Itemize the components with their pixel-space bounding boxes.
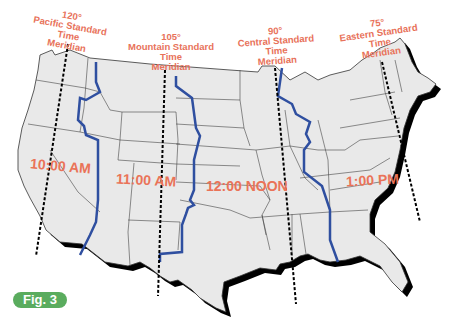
meridian-word: Meridian (128, 62, 214, 72)
meridian-label-central: 90° Central Standard Time Meridian (237, 23, 316, 68)
zone-label-eastern: 1:00 PM (346, 171, 400, 190)
zone-label-mountain: 11:00 AM (116, 170, 177, 189)
zone-label-central: 12:00 NOON (206, 178, 288, 194)
figure-badge: Fig. 3 (13, 292, 67, 308)
meridian-label-mountain: 105° Mountain Standard Time Meridian (128, 32, 214, 72)
